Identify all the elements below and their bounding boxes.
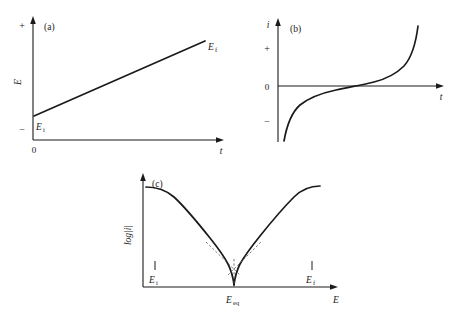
panel-b-zero-label: 0 [265,82,270,92]
panel-c-tag: (c) [152,179,163,190]
panel-c-initial-potential-subscript: i [156,279,158,286]
panel-c-equilibrium-potential-subscript: eq [233,299,240,306]
panel-c-initial-potential-label: E [148,275,155,285]
panel-a-final-potential-label: E [207,42,214,52]
panel-b: (b) i + 0 − t [240,0,462,170]
panel-b-plus-sign: + [264,43,270,54]
panel-b-x-axis-arrowhead [436,83,444,89]
panel-c-final-potential-label: E [305,275,312,285]
panel-a-initial-potential-subscript: i [43,126,45,133]
panel-c-equilibrium-potential-label: E [225,295,232,305]
panel-a-ramp-line [34,41,205,116]
panel-a-final-potential-subscript: f [215,46,218,53]
panel-b-y-axis-label: i [267,20,270,30]
panel-a-origin-label: 0 [32,145,37,155]
panel-a-y-axis-label: E [13,79,23,86]
panel-a-plus-sign: + [19,20,25,31]
panel-b-y-axis-arrowhead [275,18,281,26]
panel-c-x-axis-label: E [332,295,339,305]
panel-c-y-axis-label: log|i| [123,225,133,245]
panel-a-tag: (a) [44,22,55,33]
panel-c-anodic-tafel-extrapolation [228,241,262,275]
panel-c-anodic-branch [234,186,320,285]
panel-c-final-potential-subscript: f [313,279,316,286]
panel-c: (c) log|i| E i E f E eq E [100,163,400,313]
figure-linear-sweep-voltammetry: (a) + − E 0 t E i E f [0,0,462,313]
panel-c-cathodic-branch [146,187,234,285]
panel-a-y-axis-arrowhead [30,16,36,24]
panel-a-x-axis-arrowhead [216,137,224,143]
panel-a: (a) + − E 0 t E i E f [0,0,240,170]
panel-a-x-axis-label: t [220,146,223,156]
panel-b-tag: (b) [290,24,301,35]
panel-b-minus-sign: − [264,116,270,127]
panel-c-cathodic-tafel-extrapolation [206,242,240,275]
panel-c-y-axis-arrowhead [140,173,146,181]
panel-b-current-curve [284,26,418,141]
panel-a-initial-potential-label: E [35,122,42,132]
panel-b-x-axis-label: t [440,92,443,102]
panel-c-x-axis-arrowhead [330,284,338,290]
panel-a-minus-sign: − [19,124,25,135]
